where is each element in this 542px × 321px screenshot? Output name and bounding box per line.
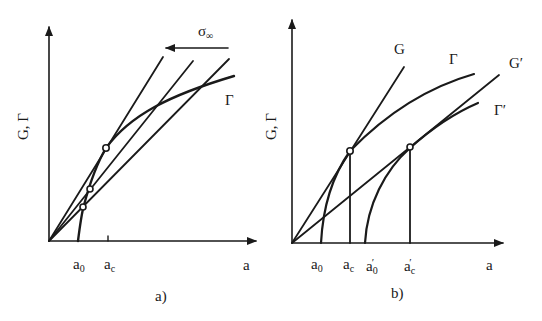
sigma-infinity-label: σ∞ bbox=[198, 24, 213, 41]
panel-b-tick-ac: ac bbox=[343, 257, 354, 274]
panel-b-gamma-prime-label: Γ′ bbox=[494, 103, 506, 118]
panel-a-gamma-label: Γ bbox=[225, 93, 234, 108]
panel-b-g-label: G bbox=[394, 42, 405, 57]
panel-b-g-prime-label: G′ bbox=[509, 56, 523, 71]
panel-a-g-lines bbox=[49, 57, 229, 241]
panel-a-y-axis-label: G, Γ bbox=[15, 113, 32, 140]
panel-a-caption: a) bbox=[155, 289, 167, 304]
panel-b-tick-ac-prime: ac′ bbox=[404, 257, 412, 276]
panel-b-x-axis-label: a bbox=[486, 258, 493, 273]
panel-a-tick-a0: a0 bbox=[73, 257, 85, 274]
panel-b-tick-a0: a0 bbox=[311, 257, 323, 274]
critical-points bbox=[80, 144, 413, 210]
panel-b-y-axis-label: G, Γ bbox=[263, 113, 280, 140]
panel-a-x-axis-label: a bbox=[243, 258, 250, 273]
panel-a-gamma-curve bbox=[78, 76, 234, 241]
panel-b-caption: b) bbox=[391, 286, 404, 301]
panel-b-gamma-label: Γ bbox=[449, 52, 458, 67]
panel-b-gamma-prime-curve bbox=[365, 103, 478, 243]
panel-b-tick-a0-prime: a0′ bbox=[366, 257, 374, 276]
panel-a-tick-ac: ac bbox=[104, 257, 115, 274]
